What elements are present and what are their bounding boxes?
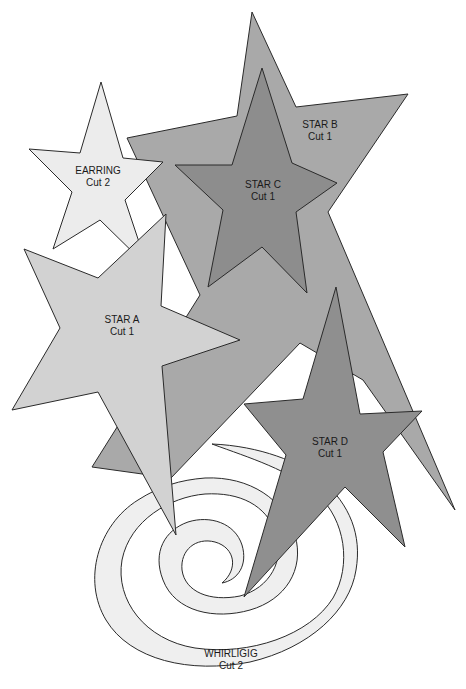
whirligig-label: WHIRLIGIG Cut 2 [204, 648, 257, 672]
star-a-label: STAR A Cut 1 [105, 314, 140, 338]
star-d-name: STAR D [312, 436, 348, 448]
star-d-cut: Cut 1 [312, 448, 348, 460]
pattern-canvas [0, 0, 466, 689]
star-b-name: STAR B [302, 119, 337, 131]
star-a-name: STAR A [105, 314, 140, 326]
star-c-name: STAR C [245, 179, 281, 191]
whirligig-cut: Cut 2 [204, 660, 257, 672]
star-b-label: STAR B Cut 1 [302, 119, 337, 143]
star-c-cut: Cut 1 [245, 191, 281, 203]
star-d-label: STAR D Cut 1 [312, 436, 348, 460]
star-c-label: STAR C Cut 1 [245, 179, 281, 203]
earring-cut: Cut 2 [75, 177, 121, 189]
star-a-cut: Cut 1 [105, 326, 140, 338]
whirligig-name: WHIRLIGIG [204, 648, 257, 660]
earring-name: EARRING [75, 165, 121, 177]
star-b-cut: Cut 1 [302, 131, 337, 143]
earring-label: EARRING Cut 2 [75, 165, 121, 189]
